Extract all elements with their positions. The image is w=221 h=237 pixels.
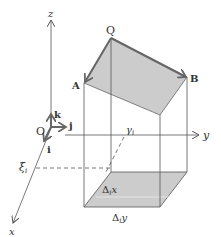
xi-label: ξi <box>19 161 27 175</box>
y-axis <box>51 125 198 135</box>
origin-label: O <box>36 125 45 138</box>
x-axis-label: x <box>9 226 15 237</box>
unit-vector-i <box>44 127 51 141</box>
point-A-label: A <box>71 80 80 91</box>
point-B-label: B <box>190 73 198 84</box>
x-axis <box>13 128 51 223</box>
surface-projection-diagram: z y x O k j i Q A B ξi γi Δix Δiy <box>0 0 221 237</box>
unit-vector-j-label: j <box>68 120 73 131</box>
gamma-dashed-line <box>106 137 124 172</box>
unit-vector-i-label: i <box>47 144 51 155</box>
y-axis-label: y <box>202 129 210 142</box>
point-Q-label: Q <box>106 24 115 37</box>
delta-y-label: Δiy <box>112 212 127 225</box>
unit-vector-k-label: k <box>54 109 62 120</box>
projection-region <box>84 172 187 207</box>
surface-patch <box>84 38 187 115</box>
z-axis-label: z <box>47 8 54 19</box>
